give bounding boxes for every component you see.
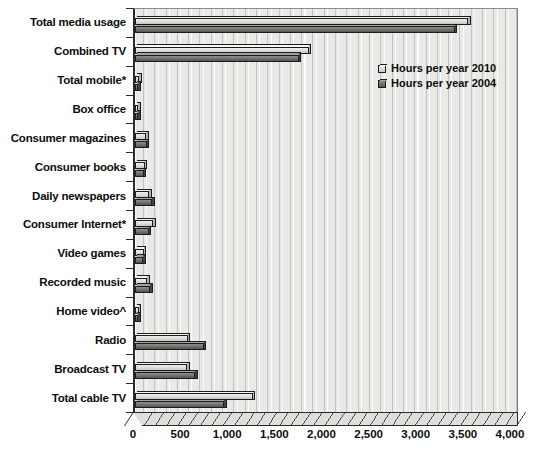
bar-face: [135, 257, 143, 264]
bar-2004-10: [135, 315, 138, 322]
plot-right-edge: [517, 9, 518, 412]
y-axis-label-2: Total mobile*: [57, 74, 126, 86]
bar-top-face: [137, 370, 197, 373]
floor-bottom-edge: [142, 425, 518, 426]
y-axis-label-6: Daily newspapers: [32, 190, 126, 202]
x-axis-label-1: 500: [171, 428, 190, 440]
y-axis-tick-11: [126, 325, 133, 326]
bar-end-cap: [468, 16, 471, 26]
y-axis-tick-7: [126, 210, 133, 211]
bar-end-cap: [138, 312, 141, 322]
bar-end-cap: [299, 52, 302, 62]
y-axis-tick-3: [126, 95, 133, 96]
figure-footnote: [2, 443, 252, 451]
bar-top-face: [137, 44, 311, 47]
bar-2004-12: [135, 372, 195, 379]
y-axis-tick-5: [126, 152, 133, 153]
chart-figure: Total media usageCombined TVTotal mobile…: [0, 0, 535, 452]
bar-end-cap: [149, 226, 152, 236]
y-axis-label-1: Combined TV: [54, 45, 126, 57]
bar-top-face: [137, 341, 206, 344]
legend-item-2010: Hours per year 2010: [378, 61, 496, 76]
bar-end-cap: [143, 254, 146, 264]
legend-item-2004: Hours per year 2004: [378, 76, 496, 91]
x-axis-label-5: 2,500: [354, 428, 383, 440]
bar-end-cap: [138, 81, 141, 91]
bar-top-face: [137, 391, 255, 394]
bar-2004-9: [135, 286, 150, 293]
bar-end-cap: [153, 218, 156, 228]
bar-top-face: [137, 362, 189, 365]
y-axis-tick-10: [126, 297, 133, 298]
bar-end-cap: [253, 391, 256, 401]
x-axis-label-8: 4,000: [496, 428, 525, 440]
bar-2004-6: [135, 199, 152, 206]
y-axis-tick-1: [126, 37, 133, 38]
floor-top-edge: [133, 412, 518, 413]
y-axis-tick-8: [126, 239, 133, 240]
bar-2004-7: [135, 228, 149, 235]
bar-2004-5: [135, 170, 144, 177]
y-axis-tick-4: [126, 123, 133, 124]
bar-2004-4: [135, 141, 147, 148]
floor-hatching: [133, 412, 527, 426]
y-axis-label-12: Broadcast TV: [54, 363, 126, 375]
y-axis-tick-12: [126, 354, 133, 355]
bar-face: [135, 55, 299, 62]
y-axis-label-11: Radio: [95, 334, 126, 346]
x-axis-label-7: 3,500: [448, 428, 477, 440]
bar-2004-8: [135, 257, 143, 264]
bar-top-face: [137, 52, 301, 55]
plot-area: Hours per year 2010 Hours per year 2004: [133, 8, 518, 412]
y-axis-tick-13: [126, 383, 133, 384]
y-axis-label-9: Recorded music: [39, 276, 126, 288]
legend-label-2004: Hours per year 2004: [391, 76, 496, 91]
x-axis-label-2: 1,000: [213, 428, 242, 440]
legend: Hours per year 2010 Hours per year 2004: [378, 61, 496, 91]
bar-end-cap: [455, 24, 458, 34]
bar-2004-3: [135, 113, 138, 120]
bar-face: [135, 343, 204, 350]
bar-face: [135, 141, 147, 148]
y-axis-tick-0: [126, 8, 133, 9]
bar-top-face: [137, 399, 226, 402]
bar-face: [135, 199, 152, 206]
bar-end-cap: [150, 283, 153, 293]
legend-label-2010: Hours per year 2010: [391, 61, 496, 76]
y-axis-label-13: Total cable TV: [52, 392, 126, 404]
bar-face: [135, 228, 149, 235]
bar-end-cap: [147, 139, 150, 149]
bar-face: [135, 286, 150, 293]
x-axis-label-3: 1,500: [260, 428, 289, 440]
bar-2004-2: [135, 84, 138, 91]
y-axis-label-5: Consumer books: [35, 161, 126, 173]
bar-face: [135, 170, 144, 177]
x-axis-label-6: 3,000: [401, 428, 430, 440]
x-axis-label-0: 0: [130, 428, 136, 440]
y-axis-label-7: Consumer Internet*: [23, 218, 126, 230]
bar-top-face: [137, 333, 190, 336]
bar-2004-11: [135, 343, 204, 350]
legend-swatch-2004-icon: [378, 80, 386, 88]
bar-top-face: [137, 24, 457, 27]
y-axis-tick-6: [126, 181, 133, 182]
y-axis-tick-9: [126, 268, 133, 269]
y-axis-category-labels: Total media usageCombined TVTotal mobile…: [0, 0, 130, 412]
bar-face: [135, 401, 224, 408]
bar-end-cap: [204, 341, 207, 351]
floor-right-edge: [517, 412, 518, 426]
bar-end-cap: [195, 370, 198, 380]
bar-end-cap: [138, 110, 141, 120]
x-axis-label-4: 2,000: [307, 428, 336, 440]
y-axis-label-4: Consumer magazines: [11, 132, 126, 144]
bar-end-cap: [224, 399, 227, 409]
x-axis-tick-labels: 05001,0001,5002,0002,5003,0003,5004,000: [0, 428, 535, 444]
bar-end-cap: [152, 197, 155, 207]
legend-swatch-2010-icon: [378, 65, 386, 73]
bar-2004-0: [135, 26, 455, 33]
bar-face: [135, 26, 455, 33]
y-axis-label-3: Box office: [72, 103, 126, 115]
y-axis-tick-2: [126, 66, 133, 67]
y-axis-label-10: Home video^: [56, 305, 126, 317]
bar-face: [135, 372, 195, 379]
